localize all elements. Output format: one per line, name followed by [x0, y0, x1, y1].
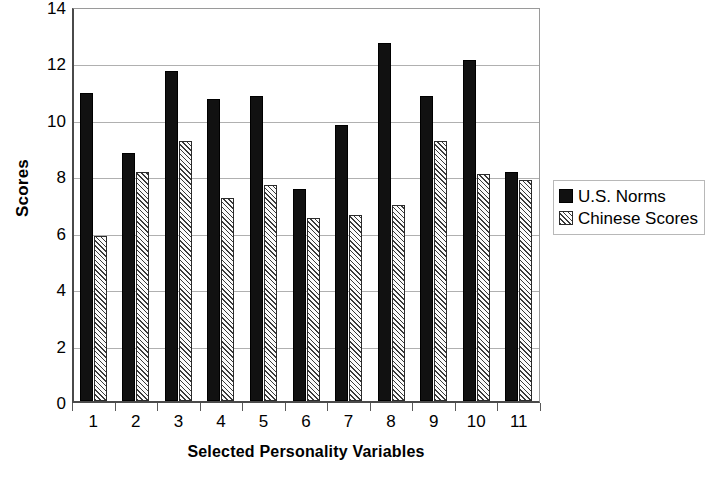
y-axis-tick-labels: 02468101214 — [22, 0, 66, 480]
bar-us-norms — [378, 43, 391, 401]
y-axis-tick-label: 8 — [30, 169, 66, 186]
x-axis-title: Selected Personality Variables — [72, 443, 540, 461]
bar-group — [250, 9, 277, 401]
bar-chinese-scores — [94, 236, 107, 401]
bar-group — [335, 9, 362, 401]
bar-group — [165, 9, 192, 401]
y-axis-tick-label: 12 — [30, 56, 66, 73]
bar-us-norms — [122, 153, 135, 401]
bar-us-norms — [165, 71, 178, 401]
bar-chinese-scores — [179, 141, 192, 401]
bar-group — [505, 9, 532, 401]
x-axis-tick-label: 7 — [329, 412, 369, 432]
x-axis-tick — [497, 403, 498, 411]
y-axis-tick-label: 6 — [30, 225, 66, 242]
bar-group — [80, 9, 107, 401]
bar-us-norms — [80, 93, 93, 401]
x-axis-tick-label: 10 — [456, 412, 496, 432]
bar-chart: Scores 02468101214 1234567891011 Selecte… — [0, 0, 723, 480]
bar-us-norms — [207, 99, 220, 401]
solid-black-square-icon — [559, 189, 573, 203]
bars-layer — [74, 9, 539, 401]
bar-chinese-scores — [349, 215, 362, 401]
y-axis-tick-label: 10 — [30, 112, 66, 129]
bar-us-norms — [293, 189, 306, 401]
x-axis-tick — [540, 403, 541, 411]
bar-us-norms — [335, 125, 348, 402]
bar-chinese-scores — [264, 185, 277, 401]
bar-group — [463, 9, 490, 401]
bar-us-norms — [250, 96, 263, 401]
x-axis-tick — [115, 403, 116, 411]
hatched-square-icon — [559, 211, 573, 225]
x-axis-tick — [285, 403, 286, 411]
bar-group — [378, 9, 405, 401]
x-axis-tick — [370, 403, 371, 411]
x-axis-tick — [242, 403, 243, 411]
bar-group — [207, 9, 234, 401]
bar-group — [122, 9, 149, 401]
bar-chinese-scores — [477, 174, 490, 401]
bar-chinese-scores — [136, 172, 149, 401]
y-axis-tick-label: 2 — [30, 338, 66, 355]
bar-chinese-scores — [392, 205, 405, 401]
legend-label: U.S. Norms — [578, 188, 666, 205]
x-axis-tick-label: 1 — [73, 412, 113, 432]
x-axis-tick — [327, 403, 328, 411]
y-axis-tick-label: 0 — [30, 395, 66, 412]
x-axis-tick — [157, 403, 158, 411]
plot-area — [72, 8, 540, 403]
x-axis-tick — [455, 403, 456, 411]
bar-chinese-scores — [221, 198, 234, 401]
x-axis-tick-label: 4 — [201, 412, 241, 432]
x-axis-tick-label: 8 — [371, 412, 411, 432]
bar-group — [420, 9, 447, 401]
bar-chinese-scores — [307, 218, 320, 401]
legend: U.S. Norms Chinese Scores — [553, 180, 705, 235]
bar-group — [293, 9, 320, 401]
x-axis-tick-label: 2 — [116, 412, 156, 432]
bar-chinese-scores — [519, 180, 532, 401]
y-axis-tick-label: 4 — [30, 282, 66, 299]
x-axis-tick — [200, 403, 201, 411]
x-axis-tick-label: 9 — [414, 412, 454, 432]
x-axis-tick-label: 5 — [243, 412, 283, 432]
legend-item-us-norms: U.S. Norms — [559, 185, 698, 207]
bar-us-norms — [505, 172, 518, 401]
x-axis-tick-label: 3 — [158, 412, 198, 432]
x-axis-tick — [412, 403, 413, 411]
x-axis-tick — [72, 403, 73, 411]
bar-chinese-scores — [434, 141, 447, 401]
x-axis-tick-label: 11 — [499, 412, 539, 432]
legend-item-chinese-scores: Chinese Scores — [559, 207, 698, 229]
bar-us-norms — [420, 96, 433, 401]
y-axis-tick-label: 14 — [30, 0, 66, 17]
legend-label: Chinese Scores — [578, 210, 698, 227]
x-axis-tick-label: 6 — [286, 412, 326, 432]
bar-us-norms — [463, 60, 476, 401]
